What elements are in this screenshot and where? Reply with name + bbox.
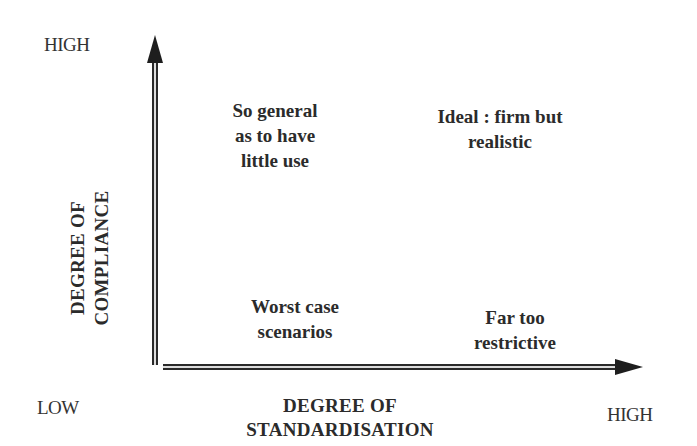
y-axis-title-line1: DEGREE OF — [66, 148, 90, 368]
quadrant-top-right: Ideal : firm but realistic — [405, 104, 595, 154]
quadrant-text-line: realistic — [405, 129, 595, 154]
quadrant-bottom-right: Far too restrictive — [440, 305, 590, 355]
low-label: LOW — [37, 397, 79, 419]
x-axis-title: DEGREE OF STANDARDISATION — [220, 394, 460, 442]
y-axis-high-label: HIGH — [44, 34, 90, 56]
quadrant-text-line: as to have — [205, 123, 345, 148]
y-axis-title: DEGREE OF COMPLIANCE — [66, 148, 114, 368]
x-axis-title-line1: DEGREE OF — [220, 394, 460, 418]
y-axis-title-line2: COMPLIANCE — [90, 148, 114, 368]
quadrant-bottom-left: Worst case scenarios — [220, 294, 370, 344]
y-axis-arrow — [147, 35, 163, 365]
x-axis-high-label: HIGH — [607, 404, 653, 426]
quadrant-text-line: Far too — [440, 305, 590, 330]
quadrant-text-line: Ideal : firm but — [405, 104, 595, 129]
quadrant-text-line: scenarios — [220, 319, 370, 344]
x-axis-title-line2: STANDARDISATION — [220, 418, 460, 442]
quadrant-top-left: So general as to have little use — [205, 98, 345, 173]
quadrant-text-line: So general — [205, 98, 345, 123]
quadrant-text-line: restrictive — [440, 330, 590, 355]
quadrant-text-line: little use — [205, 148, 345, 173]
x-axis-arrow — [163, 359, 643, 375]
quadrant-text-line: Worst case — [220, 294, 370, 319]
